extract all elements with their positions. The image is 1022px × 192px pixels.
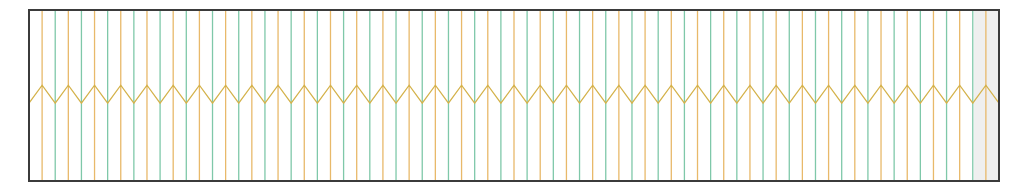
chart-figure <box>0 0 1022 192</box>
plot-area <box>0 0 1022 192</box>
figure-background <box>0 0 1022 192</box>
